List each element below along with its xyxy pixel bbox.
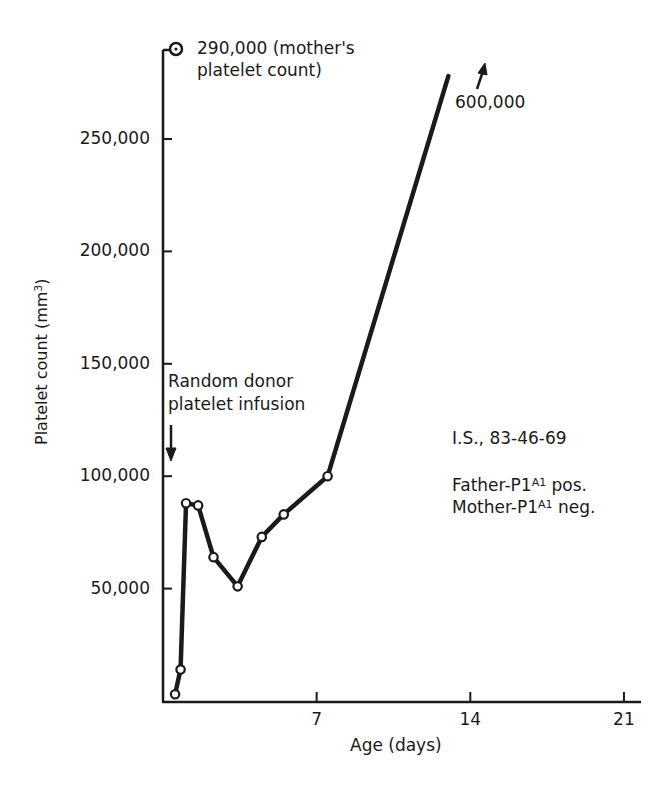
infusion-label-line1: Random donor [168,371,293,391]
data-point-marker [280,510,288,518]
data-point-marker [176,665,184,673]
y-tick-label: 50,000 [0,578,150,598]
data-point-marker [233,582,241,590]
y-tick-label: 200,000 [0,240,150,260]
y-tick-label: 100,000 [0,465,150,485]
data-point-marker [194,501,202,509]
data-point-marker [171,690,179,698]
data-point-marker [258,533,266,541]
infusion-arrow-icon [166,425,176,461]
x-axis-label: Age (days) [350,735,442,755]
x-tick-label: 14 [450,709,490,729]
chart-canvas [0,0,667,790]
off-chart-arrow-icon [477,63,487,89]
patient-id-label: I.S., 83-46-69 [452,428,567,448]
off-chart-value-label: 600,000 [455,92,525,112]
x-tick-label: 7 [297,709,337,729]
mother-count-label-line1: 290,000 (mother's [197,38,355,58]
mother-antigen-label: Mother-P1A1 neg. [452,495,595,517]
father-antigen-label: Father-P1A1 pos. [452,473,587,495]
x-tick-label: 21 [604,709,644,729]
y-tick-label: 150,000 [0,353,150,373]
data-point-marker [182,499,190,507]
y-axis-label: Platelet count (mm3) [32,278,51,445]
data-point-marker [323,472,331,480]
y-tick-label: 250,000 [0,128,150,148]
data-point-marker [209,553,217,561]
mother-reference-marker [170,43,182,55]
mother-count-label-line2: platelet count) [197,60,322,80]
infusion-label-line2: platelet infusion [168,394,305,414]
